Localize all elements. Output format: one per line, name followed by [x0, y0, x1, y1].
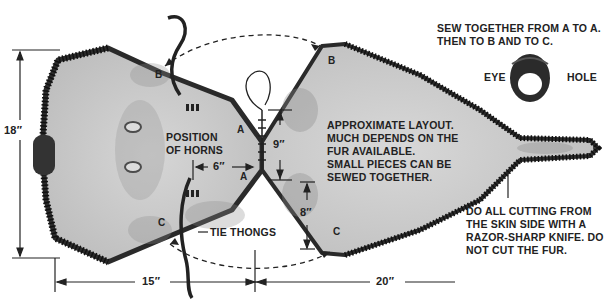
layout-note-line: SMALL PIECES CAN BE: [327, 158, 459, 171]
horns-label-line: POSITION: [166, 131, 223, 144]
tie-thongs-label: TIE THONGS: [210, 226, 276, 239]
fur-pattern-diagram: SEW TOGETHER FROM A TO A. THEN TO B AND …: [0, 0, 610, 301]
dimension-horn-offset-6: 6″: [213, 160, 225, 173]
dimension-width-15: 15″: [142, 275, 160, 288]
layout-note-line: FUR AVAILABLE.: [327, 145, 459, 158]
horns-label-line: OF HORNS: [166, 144, 223, 157]
dimension-height-18: 18″: [4, 124, 22, 137]
point-c-left: C: [158, 216, 165, 229]
nose-patch: [33, 135, 55, 175]
dimension-upper-9: 9″: [273, 138, 285, 151]
layout-note-line: APPROXIMATE LAYOUT.: [327, 119, 459, 132]
dashed-arc-b: [165, 35, 320, 66]
layout-note-line: MUCH DEPENDS ON THE: [327, 132, 459, 145]
eye-label: EYE: [484, 71, 506, 84]
sewing-instructions: SEW TOGETHER FROM A TO A. THEN TO B AND …: [437, 22, 601, 48]
cutting-note-line: NOT CUT THE FUR.: [466, 244, 604, 257]
horns-position-label: POSITION OF HORNS: [166, 131, 223, 157]
point-c-right: C: [333, 225, 340, 238]
cutting-note-line: DO ALL CUTTING FROM: [466, 205, 604, 218]
dashed-arc-c: [170, 244, 330, 268]
dimension-width-20: 20″: [376, 275, 394, 288]
thread-loop: [246, 71, 270, 110]
cutting-note-line: THE SKIN SIDE WITH A: [466, 218, 604, 231]
eye-hole-illustration: [510, 54, 550, 102]
point-b-left: B: [155, 68, 162, 81]
layout-note-line: SEWED TOGETHER.: [327, 171, 459, 184]
sewing-instruction-line: THEN TO B AND TO C.: [437, 35, 601, 48]
sewing-instruction-line: SEW TOGETHER FROM A TO A.: [437, 22, 601, 35]
cutting-note: DO ALL CUTTING FROM THE SKIN SIDE WITH A…: [466, 205, 604, 257]
point-b-right: B: [328, 54, 335, 67]
layout-note: APPROXIMATE LAYOUT. MUCH DEPENDS ON THE …: [327, 119, 459, 184]
dimension-lower-8: 8″: [300, 206, 312, 219]
hole-label: HOLE: [567, 71, 597, 84]
point-a-upper: A: [237, 123, 244, 136]
point-a-lower: A: [240, 170, 247, 183]
cutting-note-line: RAZOR-SHARP KNIFE. DO: [466, 231, 604, 244]
